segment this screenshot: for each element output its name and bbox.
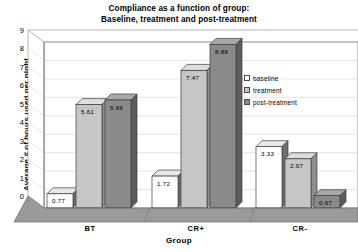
y-tick-6: 6 xyxy=(8,81,24,90)
value-crminus-post-treatment: 0.67 xyxy=(319,199,332,206)
bar-crplus-treatment[interactable] xyxy=(181,64,213,207)
value-crplus-treatment: 7.47 xyxy=(186,74,199,81)
legend-item-treatment[interactable]: treatment xyxy=(244,85,297,95)
value-crplus-baseline: 1.72 xyxy=(157,180,170,187)
y-tick-5: 5 xyxy=(8,100,24,109)
value-crminus-treatment: 2.67 xyxy=(290,162,303,169)
chart-container: Compliance as a function of group: Basel… xyxy=(0,0,358,252)
value-crplus-post-treatment: 8.88 xyxy=(215,48,228,55)
legend-item-post-treatment[interactable]: post-treatment xyxy=(244,97,297,107)
chart-legend: baseline treatment post-treatment xyxy=(244,73,297,109)
bar-bt-post-treatment[interactable] xyxy=(105,94,137,208)
y-tick-2: 2 xyxy=(8,155,24,164)
x-tick-crplus: CR+ xyxy=(166,224,226,233)
value-crminus-baseline: 3.33 xyxy=(261,150,274,157)
legend-label-treatment: treatment xyxy=(253,87,282,94)
y-tick-0: 0 xyxy=(8,192,24,201)
legend-swatch-treatment xyxy=(244,87,250,93)
y-tick-8: 8 xyxy=(8,44,24,53)
bar-crplus-baseline[interactable] xyxy=(152,170,184,208)
x-tick-crminus: CR- xyxy=(270,224,330,233)
value-bt-baseline: 0.77 xyxy=(52,197,65,204)
y-tick-7: 7 xyxy=(8,63,24,72)
value-bt-treatment: 5.61 xyxy=(81,108,94,115)
y-tick-3: 3 xyxy=(8,137,24,146)
y-tick-1: 1 xyxy=(8,174,24,183)
y-tick-4: 4 xyxy=(8,118,24,127)
legend-label-post-treatment: post-treatment xyxy=(253,99,297,106)
bar-crplus-post-treatment[interactable] xyxy=(210,38,242,207)
legend-swatch-post-treatment xyxy=(244,99,250,105)
x-tick-bt: BT xyxy=(60,224,120,233)
plot-left-wall xyxy=(28,30,44,208)
plot-area xyxy=(0,0,358,252)
legend-item-baseline[interactable]: baseline xyxy=(244,73,297,83)
value-bt-post-treatment: 5.86 xyxy=(110,104,123,111)
legend-label-baseline: baseline xyxy=(253,75,278,82)
y-tick-9: 9 xyxy=(8,26,24,35)
legend-swatch-baseline xyxy=(244,75,250,81)
